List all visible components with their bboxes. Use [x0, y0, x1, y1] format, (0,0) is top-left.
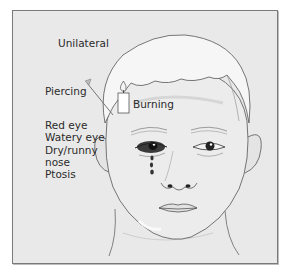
piercing-label: Piercing	[45, 85, 87, 97]
symptom-item: Watery eye	[45, 131, 105, 143]
symptom-item: Red eye	[45, 119, 105, 131]
illustration-frame: Unilateral Piercing Burning Red eye Wate…	[12, 10, 278, 264]
burning-label: Burning	[133, 98, 174, 110]
laterality-label: Unilateral	[58, 37, 109, 49]
symptom-item: Dry/runny	[45, 144, 105, 156]
symptom-item: Ptosis	[45, 168, 105, 180]
symptom-item: nose	[45, 156, 105, 168]
symptom-list: Red eye Watery eye Dry/runny nose Ptosis	[45, 119, 105, 180]
